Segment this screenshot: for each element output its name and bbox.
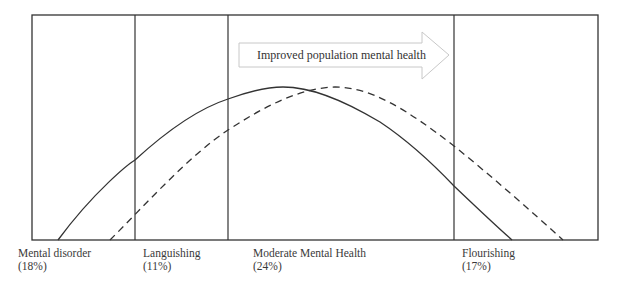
curve-improved-distribution <box>110 87 563 240</box>
improvement-arrow: Improved population mental health <box>239 32 449 79</box>
zone-label-flourishing: Flourishing (17%) <box>462 247 515 273</box>
zone-percent: (24%) <box>253 260 366 273</box>
zone-label-moderate-mental-health: Moderate Mental Health (24%) <box>253 247 366 273</box>
zone-label-mental-disorder: Mental disorder (18%) <box>18 247 91 273</box>
zone-percent: (18%) <box>18 260 91 273</box>
zone-name: Languishing <box>143 247 201 260</box>
arrow-label: Improved population mental health <box>257 48 426 62</box>
zone-percent: (11%) <box>143 260 201 273</box>
zone-name: Flourishing <box>462 247 515 260</box>
zone-name: Moderate Mental Health <box>253 247 366 260</box>
zone-name: Mental disorder <box>18 247 91 260</box>
zone-percent: (17%) <box>462 260 515 273</box>
mental-health-continuum-diagram: Improved population mental health <box>0 0 619 286</box>
zone-label-languishing: Languishing (11%) <box>143 247 201 273</box>
curve-current-distribution <box>58 87 512 240</box>
